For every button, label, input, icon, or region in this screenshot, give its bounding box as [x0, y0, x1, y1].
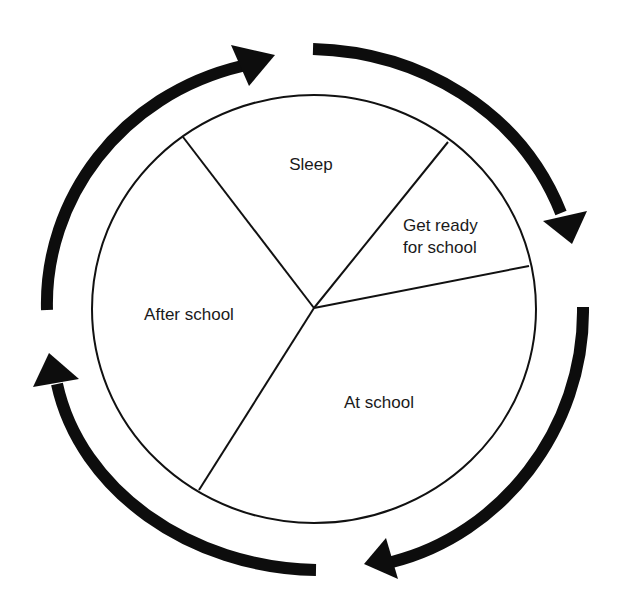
- daily-cycle-diagram: Sleep Get ready for school At school Aft…: [0, 0, 625, 609]
- segment-label-get-ready-line1: Get ready: [403, 216, 478, 235]
- segment-label-after-school: After school: [144, 305, 234, 324]
- segment-label-at-school: At school: [344, 393, 414, 412]
- segment-label-sleep: Sleep: [289, 155, 332, 174]
- segment-label-get-ready-line2: for school: [403, 238, 477, 257]
